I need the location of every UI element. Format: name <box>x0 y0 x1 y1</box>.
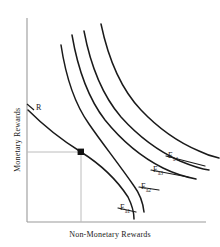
chart-canvas <box>0 0 220 247</box>
label-ea4-sub: a4 <box>173 156 178 162</box>
r-axis-tick <box>27 104 34 110</box>
label-ea3: Ea3 <box>153 166 163 176</box>
y-axis-label: Monetary Rewards <box>14 108 22 172</box>
endowment-point-label: R <box>36 104 41 112</box>
tangency-point-marker <box>78 149 84 155</box>
label-ea2-sub: a2 <box>146 187 151 193</box>
x-axis-label: Non-Monetary Rewards <box>0 231 220 239</box>
indifference-curve-chart: Monetary Rewards Non-Monetary Rewards R … <box>0 0 220 247</box>
indifference-curve-3 <box>84 31 209 170</box>
label-ea3-sub: a3 <box>158 170 163 176</box>
label-ea2: Ea2 <box>141 183 151 193</box>
label-ea4: Ea4 <box>168 152 178 162</box>
guide-lines <box>27 152 81 222</box>
label-ea1-sub: a1 <box>125 208 130 214</box>
indifference-curve-4 <box>101 24 219 158</box>
axes <box>27 18 206 222</box>
label-ea1: Ea1 <box>120 204 130 214</box>
